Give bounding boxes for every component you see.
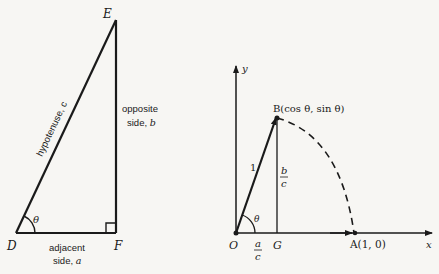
fraction-denominator-c: c <box>281 178 287 189</box>
fraction-denominator-c: c <box>255 251 261 262</box>
adjacent-label-line2: side, a <box>53 255 82 266</box>
point-B-label: B(cos θ, sin θ) <box>273 103 345 114</box>
right-angle-marker <box>106 223 116 233</box>
vertex-label-F: F <box>113 239 123 253</box>
x-axis-label: x <box>426 239 432 250</box>
vertex-label-D: D <box>6 239 17 253</box>
foot-label-G: G <box>273 239 282 252</box>
point-A-label: A(1, 0) <box>349 238 386 250</box>
dashed-unit-arc <box>277 118 354 233</box>
origin-label: O <box>229 239 238 252</box>
opposite-label-line2: side, b <box>127 117 156 128</box>
fraction-numerator-b: b <box>281 165 287 176</box>
point-B <box>275 116 280 121</box>
right-triangle: E D F θ hypotenuse, c opposite side, b a… <box>6 7 158 266</box>
vertex-label-E: E <box>102 7 112 21</box>
adjacent-label-line1: adjacent <box>49 242 85 253</box>
radius-label: 1 <box>250 162 256 173</box>
diagram-canvas: E D F θ hypotenuse, c opposite side, b a… <box>0 0 439 274</box>
y-axis-label: y <box>241 63 248 74</box>
point-O <box>234 231 239 236</box>
theta-label-left: θ <box>33 214 39 225</box>
unit-circle-diagram: y x O G A(1, 0) B(cos θ, sin θ) 1 θ b c … <box>229 63 432 262</box>
fraction-numerator-a: a <box>255 238 261 249</box>
hypotenuse-side <box>16 20 116 233</box>
point-A <box>353 231 358 236</box>
theta-label-right: θ <box>254 214 260 224</box>
opposite-label-line1: opposite <box>122 103 158 114</box>
fraction-a-over-c: a c <box>254 238 262 262</box>
fraction-b-over-c: b c <box>280 165 288 189</box>
